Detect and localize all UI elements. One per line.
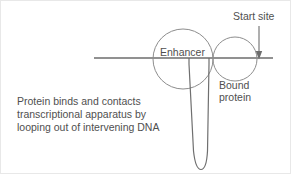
bound-protein-label-line1: Bound [219,79,250,91]
enhancer-looping-figure: Start site Enhancer Bound protein Protei… [0,0,291,174]
bound-protein-label-line2: protein [219,91,251,103]
diagram-canvas: Start site Enhancer Bound protein Protei… [1,1,291,174]
caption-line-1: Protein binds and contacts [17,95,141,107]
caption-line-2: transcriptional apparatus by [17,108,147,120]
bound-protein-circle [213,37,257,81]
enhancer-circle [153,29,213,89]
start-site-label: Start site [233,10,275,22]
caption-line-3: looping out of intervening DNA [17,121,159,133]
enhancer-label: Enhancer [160,46,205,58]
dna-loop-path [189,58,209,170]
